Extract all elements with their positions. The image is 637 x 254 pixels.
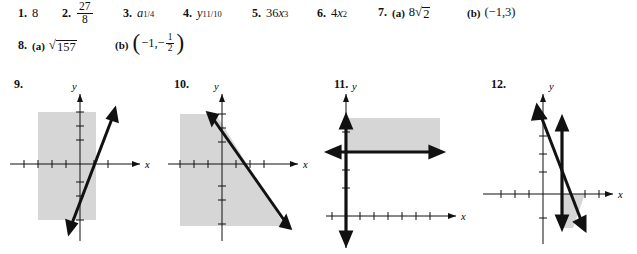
radicand: 2 <box>422 7 430 21</box>
exponent-numerator: 11 <box>203 9 211 19</box>
sqrt-157: √ 157 <box>49 38 77 54</box>
graph-10-plot: y x <box>160 76 320 254</box>
x-axis-label: x <box>302 159 308 170</box>
axes <box>483 94 613 244</box>
fraction-denominator: 2 <box>166 44 175 54</box>
graph-row: 9. <box>0 76 637 254</box>
fraction-1-2: 1 2 <box>166 33 175 53</box>
monomial-coefficient: 36 <box>266 6 279 21</box>
answer-number: 2. <box>62 6 71 21</box>
fraction-numerator: 27 <box>77 1 93 14</box>
answer-number: 1. <box>18 6 27 21</box>
fraction-denominator: 8 <box>80 14 90 26</box>
answer-number: 7. <box>378 5 387 20</box>
fraction-numerator: 1 <box>166 33 175 44</box>
shaded-region <box>38 112 96 220</box>
shaded-region <box>348 118 440 152</box>
pair-second-sign: − <box>158 38 165 48</box>
graph-11: 11. <box>320 76 480 254</box>
answer-item-7b: (b) (−1,3) <box>467 5 515 20</box>
exponent-denominator: 4 <box>150 9 154 19</box>
monomial-exponent: 3 <box>284 9 288 19</box>
power-exponent: 1/4 <box>143 9 154 19</box>
ordered-pair-contents: −1, − 1 2 <box>141 33 175 53</box>
answer-number: 8. <box>18 38 27 53</box>
answer-item-5: 5. 36x3 <box>252 6 288 21</box>
y-axis-label: y <box>213 81 219 92</box>
answer-item-8: 8. (a) √ 157 <box>18 38 77 54</box>
answer-item-6: 6. 4x2 <box>317 6 347 21</box>
answer-number: 6. <box>317 6 326 21</box>
radical-sign: √ <box>49 38 56 51</box>
part-label-b: (b) <box>467 7 480 19</box>
radical-sign: √ <box>415 5 422 18</box>
paren-open: ( <box>132 34 140 52</box>
y-axis-label: y <box>71 81 77 92</box>
paren-close: ) <box>176 34 184 52</box>
answer-number: 3. <box>123 6 132 21</box>
graph-9-plot: y x <box>0 76 160 254</box>
answer-item-4: 4. y11/10 <box>183 6 222 21</box>
part-label-a: (a) <box>392 7 405 19</box>
answer-row-2: 8. (a) √ 157 (b) ( −1, − 1 2 ) <box>0 33 637 66</box>
answer-item-3: 3. a1/4 <box>123 6 154 21</box>
tick-marks <box>501 118 599 218</box>
ordered-pair: (−1,3) <box>484 5 515 20</box>
x-axis-label: x <box>460 211 466 222</box>
graph-12: 12. <box>477 76 637 254</box>
answer-item-2: 2. 27 8 <box>62 1 94 25</box>
sqrt-2: √ 2 <box>415 5 430 21</box>
answer-number: 4. <box>183 6 192 21</box>
fraction-27-8: 27 8 <box>77 1 93 25</box>
graph-10: 10. <box>160 76 320 254</box>
monomial-exponent: 2 <box>343 9 347 19</box>
axis-arrows <box>343 94 456 219</box>
answer-number: 5. <box>252 6 261 21</box>
part-label-a: (a) <box>32 40 45 52</box>
answer-row-1: 1. 8 2. 27 8 3. a1/4 4. y11/10 5. 36x3 6… <box>0 0 637 33</box>
x-axis-label: x <box>144 159 150 170</box>
part-label-b: (b) <box>115 39 128 51</box>
y-axis-label: y <box>351 81 357 92</box>
shaded-region <box>180 114 285 226</box>
exponent-numerator: 1 <box>143 9 147 19</box>
graph-11-plot: y x <box>320 76 480 254</box>
pair-first: −1, <box>141 38 157 48</box>
graph-9: 9. <box>0 76 160 254</box>
answer-item-8b: (b) ( −1, − 1 2 ) <box>115 33 184 53</box>
ordered-pair-group: ( −1, − 1 2 ) <box>132 33 184 53</box>
power-exponent: 11/10 <box>203 9 222 19</box>
graph-12-plot: y x <box>477 76 637 254</box>
answer-value: 8 <box>32 6 38 21</box>
answer-item-7: 7. (a) 8 √ 2 <box>378 5 430 21</box>
exponent-denominator: 10 <box>213 9 222 19</box>
y-axis-label: y <box>548 81 554 92</box>
answer-list: 1. 8 2. 27 8 3. a1/4 4. y11/10 5. 36x3 6… <box>0 0 637 66</box>
x-axis-label: x <box>617 189 623 200</box>
answer-item-1: 1. 8 <box>18 6 38 21</box>
radicand: 157 <box>56 40 77 54</box>
